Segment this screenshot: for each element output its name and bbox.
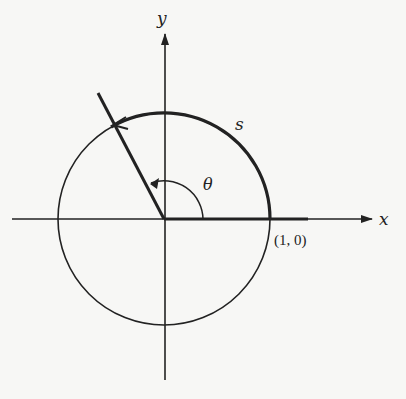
angle-label-theta: θ — [203, 175, 213, 194]
x-axis-label: x — [379, 209, 389, 229]
unit-circle-diagram: y x s θ (1, 0) — [0, 0, 406, 399]
angle-theta-arc — [151, 181, 203, 219]
point-label: (1, 0) — [274, 232, 307, 249]
arc-label-s: s — [235, 114, 244, 134]
y-axis-label: y — [156, 8, 167, 28]
angle-arrowhead-icon — [150, 178, 159, 189]
